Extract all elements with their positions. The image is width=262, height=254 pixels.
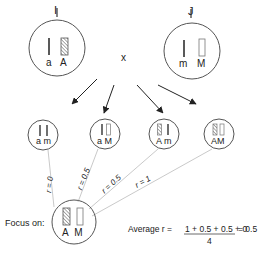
svg-text:r = 0.5: r = 0.5 — [100, 173, 123, 195]
chromosome-M — [199, 39, 205, 56]
inheritance-diagram: r = 0 r = 0.5 r = 0.5 r = 1 — [0, 0, 262, 254]
cross-symbol: x — [121, 52, 126, 63]
average-denominator: 4 — [207, 236, 212, 246]
parent-J-label: J — [188, 5, 194, 17]
average-result: = 0.5 — [238, 224, 257, 234]
parent-I-label: I — [54, 4, 57, 16]
svg-text:r = 0.5: r = 0.5 — [75, 166, 92, 191]
focus-alleles: A M — [62, 227, 83, 238]
offspring-4-label: AM — [211, 136, 225, 146]
chromosome-A — [61, 38, 68, 55]
offspring-1-label: a m — [36, 136, 51, 146]
svg-text:r = 0: r = 0 — [44, 176, 55, 194]
r-labels: r = 0 r = 0.5 r = 0.5 r = 1 — [44, 166, 152, 195]
allele-m: m — [179, 58, 187, 69]
focus-label: Focus on: — [5, 218, 45, 228]
parent-I — [29, 8, 85, 76]
offspring-2-label: a M — [97, 136, 112, 146]
allele-A: A — [60, 57, 67, 68]
allele-M: M — [197, 58, 205, 69]
offspring-3-label: A m — [156, 136, 172, 146]
arrows — [72, 79, 196, 113]
average-prefix: Average r = — [128, 224, 172, 234]
parent-J — [164, 9, 220, 79]
relatedness-lines — [48, 149, 212, 216]
allele-a: a — [46, 57, 52, 68]
